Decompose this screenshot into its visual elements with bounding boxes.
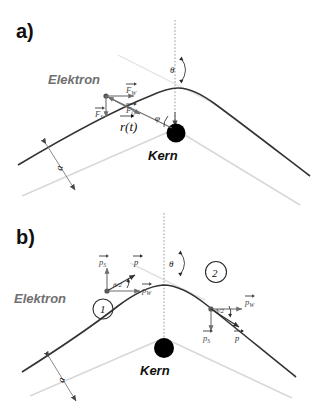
scattering-angle-b: θ [169,250,185,276]
momentum-tangential-subscript-1: W [146,290,152,296]
polar-angle-label: φ [155,113,160,123]
impact-parameter-b: a [49,357,76,401]
electron-label-b: Elektron [14,291,66,306]
svg-text:pW: pW [244,297,255,308]
figure-canvas: FW FC FS r(t) θ φ [0,0,321,415]
momentum-perp-subscript-1: S [103,262,106,268]
momentum-perp-label-2: pS [202,329,213,344]
svg-text:pW: pW [141,285,152,296]
electron-label-a: Elektron [48,72,100,87]
scattering-figure: FW FC FS r(t) θ φ [0,0,321,415]
half-angle-label-1: θ/2 [113,281,122,289]
panel-b-label: b) [16,226,35,248]
svg-text:pS: pS [98,257,106,268]
point-one-label: 1 [100,303,106,315]
scattering-angle-a: θ [170,56,186,83]
force-tangential-subscript: W [131,90,137,96]
position-vector-label-a: r(t) [120,114,137,134]
force-tangential-label-a: FW [125,82,137,96]
panel-a-label: a) [16,20,34,42]
point-marker-1: 1 [93,299,113,319]
scattering-angle-label-b: θ [169,259,174,269]
momentum-tangential-label-2: pW [244,294,255,308]
momentum-perp-label-1: pS [98,254,109,268]
point-marker-2: 2 [206,262,227,283]
momentum-total-label-1: p [133,254,143,267]
asymptote-upper-a [118,55,215,104]
half-angle-1: θ/2 [113,279,130,289]
half-angle-2: θ/2 [215,306,232,318]
nucleus-label-b: Kern [140,363,170,378]
asymptote-outgoing-a [175,129,300,205]
svg-text:pS: pS [202,333,210,344]
panel-b: pS p pW θ/2 1 [14,213,296,401]
momentum-perp-subscript-2: S [207,338,210,344]
momentum-total-label-2: p [234,329,244,343]
momentum-total-symbol-1: p [133,257,138,267]
panel-a: FW FC FS r(t) θ φ [16,20,310,205]
impact-parameter-label: a [53,165,65,172]
svg-text:FW: FW [125,85,137,96]
position-vector-text: r(t) [120,119,137,134]
asymptote-outgoing-b [164,338,292,398]
svg-text:FS: FS [94,109,103,120]
svg-text:FC: FC [125,105,136,116]
force-perpendicular-subscript: S [100,114,103,120]
impact-parameter-label-b: a [55,377,67,384]
point-two-label: 2 [212,267,218,279]
nucleus-dot-b [154,338,174,358]
scattering-angle-label: θ [170,65,175,75]
half-angle-label-2: θ/2 [215,307,224,315]
nucleus-label-a: Kern [148,148,178,163]
momentum-total-symbol-2: p [234,333,239,343]
momentum-tangential-subscript-2: W [249,302,255,308]
